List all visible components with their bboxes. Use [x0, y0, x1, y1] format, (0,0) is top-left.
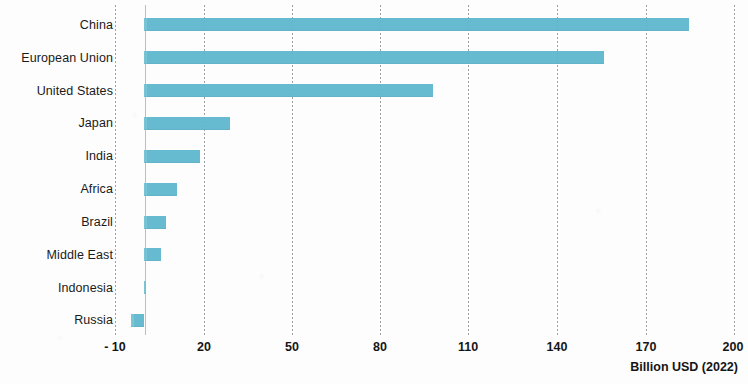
bar-european-union [144, 51, 603, 64]
x-axis-title: Billion USD (2022) [630, 360, 738, 375]
plot-area: - 10 20 50 80 110 140 170 200 Billion US… [0, 0, 748, 384]
gridline-200 [734, 5, 735, 335]
bar-united-states [144, 84, 432, 97]
bar-africa [144, 183, 176, 196]
x-axis-tick-110: 110 [458, 340, 478, 355]
bar-indonesia [144, 281, 146, 294]
x-axis-tick-minus-10: - 10 [104, 340, 126, 355]
bar-chart: China European Union United States Japan… [0, 0, 748, 384]
bar-brazil [144, 216, 166, 229]
gridline-minus-10 [115, 5, 116, 335]
bar-russia [131, 314, 144, 327]
bar-china [144, 18, 688, 31]
x-axis-tick-170: 170 [636, 340, 657, 355]
x-axis-tick-20: 20 [197, 340, 211, 355]
x-axis-tick-80: 80 [373, 340, 387, 355]
bar-middle-east [144, 248, 160, 261]
gridline-170 [646, 5, 647, 335]
bar-india [144, 150, 200, 163]
bar-japan [144, 117, 229, 130]
x-axis-tick-140: 140 [547, 340, 568, 355]
x-axis-tick-50: 50 [285, 340, 299, 355]
x-axis-tick-200: 200 [723, 340, 744, 355]
